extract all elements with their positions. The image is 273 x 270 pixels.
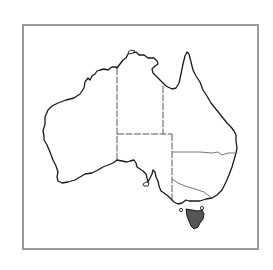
australia-mainland (43, 52, 237, 204)
tasmania-highlighted (186, 209, 204, 229)
australia-map (0, 0, 273, 270)
flinders-island (200, 206, 203, 209)
king-island (179, 208, 182, 211)
kangaroo-island (143, 182, 149, 186)
